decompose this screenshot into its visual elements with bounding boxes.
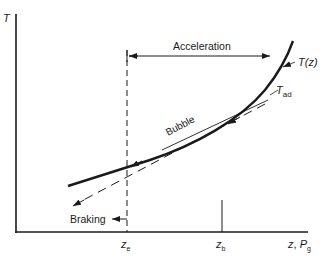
temperature-curve — [68, 41, 293, 186]
ze-tick-sub: e — [127, 245, 131, 252]
y-axis-label: T — [3, 12, 11, 24]
braking-label: Braking — [70, 213, 106, 225]
bubble-arrow-lower — [73, 200, 84, 206]
tz-label-leader — [283, 62, 295, 67]
tad-label: Tad — [276, 84, 292, 99]
tz-label: T(z) — [298, 56, 318, 68]
x-axis-label-sub: g — [307, 245, 311, 253]
tad-label-sub: ad — [283, 90, 292, 99]
acceleration-label: Acceleration — [173, 40, 231, 52]
ze-tick-label: ze — [120, 238, 131, 252]
zb-tick-sub: b — [222, 245, 226, 252]
x-axis-label: z, Pg — [287, 238, 311, 253]
zb-tick-label: zb — [215, 238, 226, 252]
diagram-canvas: T Acceleration Braking Bubble T(z) Tad z… — [0, 0, 328, 261]
bubble-label: Bubble — [164, 113, 197, 138]
